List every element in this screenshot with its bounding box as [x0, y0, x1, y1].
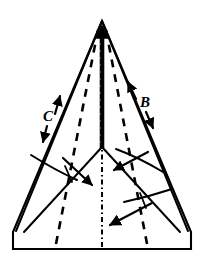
edge-arrow-left-up	[55, 96, 60, 114]
folding-diagram: B C	[0, 0, 203, 266]
label-b: B	[139, 94, 150, 110]
label-c: C	[43, 108, 54, 124]
v-line-left	[24, 147, 102, 232]
fold-arrow-lower-down-left	[110, 203, 152, 225]
fold-direction-arrows	[63, 152, 152, 225]
center-slit	[100, 32, 102, 148]
dashed-fold-left	[55, 30, 98, 249]
diagram-canvas: B C	[0, 0, 203, 266]
edge-arrow-left-down	[43, 126, 47, 142]
